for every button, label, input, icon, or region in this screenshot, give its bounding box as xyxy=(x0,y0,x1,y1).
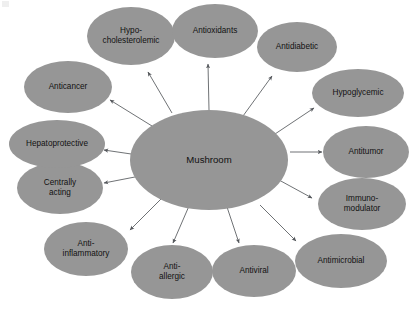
edge-mushroom-to-antidiabetic xyxy=(243,76,272,116)
edge-mushroom-to-antiallergic xyxy=(173,206,189,243)
node-centrally-acting[interactable] xyxy=(17,162,103,214)
mushroom-bioactivity-diagram: MushroomHypo-cholesterolemicAntioxidants… xyxy=(0,0,419,309)
edge-mushroom-to-hypocholesterolemic xyxy=(148,72,172,113)
node-antiviral[interactable] xyxy=(212,245,296,297)
nodes-layer: MushroomHypo-cholesterolemicAntioxidants… xyxy=(9,4,409,299)
diagram-canvas: MushroomHypo-cholesterolemicAntioxidants… xyxy=(0,0,419,309)
edge-mushroom-to-anticancer xyxy=(110,100,152,126)
node-immunomodulator[interactable] xyxy=(318,178,406,230)
node-hypoglycemic[interactable] xyxy=(312,69,404,117)
edge-mushroom-to-antiviral xyxy=(227,207,239,243)
edge-mushroom-to-immunomodulator xyxy=(279,180,312,198)
node-hepatoprotective[interactable] xyxy=(9,120,105,168)
node-antitumor[interactable] xyxy=(323,126,409,178)
node-antimicrobial[interactable] xyxy=(295,234,387,288)
edge-mushroom-to-hypoglycemic xyxy=(275,108,314,134)
node-antiinflammatory[interactable] xyxy=(44,222,128,276)
edge-mushroom-to-antimicrobial xyxy=(260,205,296,241)
edge-mushroom-to-antiinflammatory xyxy=(130,199,161,230)
node-antidiabetic[interactable] xyxy=(257,22,337,72)
node-hypocholesterolemic[interactable] xyxy=(87,7,175,65)
node-antiallergic[interactable] xyxy=(131,245,213,299)
node-anticancer[interactable] xyxy=(24,61,112,113)
edge-mushroom-to-antioxidants xyxy=(208,64,209,110)
edge-mushroom-to-centrally-acting xyxy=(104,176,140,183)
node-antioxidants[interactable] xyxy=(172,4,258,58)
node-mushroom[interactable] xyxy=(130,110,288,210)
